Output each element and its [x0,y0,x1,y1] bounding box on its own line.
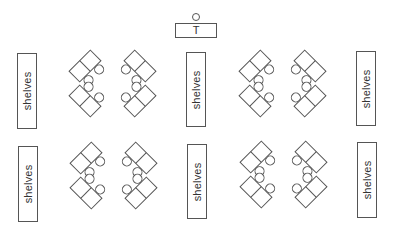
group-top-left-right-lower-desks [117,78,156,117]
shelf-top-left: shelves [17,53,37,129]
group-bottom-left-left-lower-desks [70,170,109,209]
shelf-label: shelves [360,69,372,108]
shelf-label: shelves [22,165,34,204]
shelf-bottom-right: shelves [357,142,377,218]
group-bottom-left-right-lower-desks [118,170,157,209]
group-top-left-left-lower-desks [69,78,108,117]
teacher-desk: T [175,23,217,38]
shelf-label: shelves [190,70,202,109]
group-top-right-left-lower-desks [239,78,278,117]
group-top-right-right-lower-desks [287,78,326,117]
group-bottom-right-left-lower-desks [240,169,279,208]
shelf-top-right: shelves [356,51,376,126]
shelf-label: shelves [21,72,33,111]
shelf-label: shelves [361,161,373,200]
shelf-top-middle: shelves [186,52,206,127]
shelf-bottom-left: shelves [18,146,38,222]
teacher-desk-label: T [193,24,200,36]
teacher-chair [192,13,200,21]
shelf-bottom-middle: shelves [187,144,207,219]
classroom-layout: T shelvesshelvesshelvesshelvesshelvesshe… [0,0,393,234]
group-bottom-right-right-lower-desks [288,169,327,208]
shelf-label: shelves [191,162,203,201]
